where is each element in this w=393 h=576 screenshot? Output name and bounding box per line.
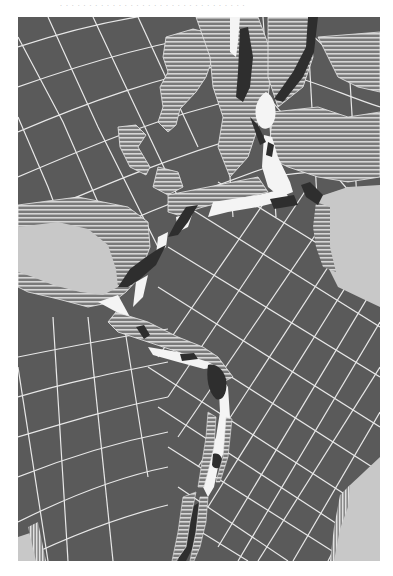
map-frame bbox=[18, 17, 380, 561]
top-caption-fragment: . . . . . . . . . . . . . . . . . . . . … bbox=[60, 0, 330, 8]
paleogeographic-map bbox=[18, 17, 380, 561]
